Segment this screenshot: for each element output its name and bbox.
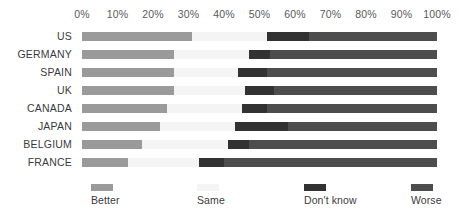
chart-legend: BetterSameDon't knowWorse bbox=[82, 184, 474, 214]
row-label-belgium: BELGIUM bbox=[0, 138, 72, 150]
bar-segment-same bbox=[192, 32, 267, 41]
x-axis-tick: 20% bbox=[142, 8, 163, 20]
row-label-japan: JAPAN bbox=[0, 120, 72, 132]
bar-segment-don-t-know bbox=[267, 32, 310, 41]
legend-swatch-icon bbox=[91, 184, 113, 191]
row-label-germany: GERMANY bbox=[0, 48, 72, 60]
legend-swatch-icon bbox=[304, 184, 326, 191]
stacked-bar-chart: 0%10%20%30%40%50%60%70%80%90%100% USGERM… bbox=[0, 0, 474, 218]
x-axis-tick: 50% bbox=[249, 8, 270, 20]
x-axis-tick: 30% bbox=[178, 8, 199, 20]
bar-segment-same bbox=[174, 86, 245, 95]
x-axis-tick: 10% bbox=[107, 8, 128, 20]
bar-segment-worse bbox=[224, 158, 437, 167]
legend-item[interactable]: Don't know bbox=[304, 184, 357, 206]
bar-segment-better bbox=[82, 158, 128, 167]
chart-row: GERMANY bbox=[0, 48, 474, 66]
legend-item[interactable]: Worse bbox=[411, 184, 442, 206]
chart-row: US bbox=[0, 30, 474, 48]
legend-swatch-icon bbox=[197, 184, 219, 191]
row-label-us: US bbox=[0, 30, 72, 42]
chart-row: BELGIUM bbox=[0, 138, 474, 156]
x-axis-tick-labels: 0%10%20%30%40%50%60%70%80%90%100% bbox=[82, 8, 437, 22]
bar-segment-worse bbox=[288, 122, 437, 131]
stacked-bar bbox=[82, 50, 437, 59]
bar-segment-don-t-know bbox=[228, 140, 249, 149]
bar-segment-better bbox=[82, 86, 174, 95]
bar-segment-worse bbox=[249, 140, 437, 149]
bar-segment-worse bbox=[267, 68, 437, 77]
bar-segment-don-t-know bbox=[199, 158, 224, 167]
stacked-bar bbox=[82, 104, 437, 113]
bar-segment-worse bbox=[309, 32, 437, 41]
bar-segment-don-t-know bbox=[242, 104, 267, 113]
bar-segment-worse bbox=[274, 86, 437, 95]
legend-swatch-icon bbox=[411, 184, 433, 191]
bar-segment-same bbox=[174, 68, 238, 77]
chart-row: SPAIN bbox=[0, 66, 474, 84]
bar-segment-better bbox=[82, 140, 142, 149]
x-axis-tick: 90% bbox=[391, 8, 412, 20]
x-axis-tick: 100% bbox=[423, 8, 450, 20]
chart-plot-area: USGERMANYSPAINUKCANADAJAPANBELGIUMFRANCE bbox=[0, 30, 474, 178]
stacked-bar bbox=[82, 68, 437, 77]
x-axis-tick: 60% bbox=[284, 8, 305, 20]
row-label-spain: SPAIN bbox=[0, 66, 72, 78]
bar-segment-same bbox=[160, 122, 235, 131]
stacked-bar bbox=[82, 122, 437, 131]
bar-segment-don-t-know bbox=[235, 122, 288, 131]
x-axis-tick: 0% bbox=[74, 8, 89, 20]
legend-item[interactable]: Same bbox=[197, 184, 225, 206]
bar-segment-better bbox=[82, 104, 167, 113]
stacked-bar bbox=[82, 158, 437, 167]
bar-segment-better bbox=[82, 50, 174, 59]
row-label-uk: UK bbox=[0, 84, 72, 96]
stacked-bar bbox=[82, 32, 437, 41]
bar-segment-same bbox=[128, 158, 199, 167]
bar-segment-same bbox=[167, 104, 242, 113]
bar-segment-better bbox=[82, 68, 174, 77]
legend-label: Don't know bbox=[304, 194, 357, 206]
legend-item[interactable]: Better bbox=[91, 184, 120, 206]
bar-segment-worse bbox=[270, 50, 437, 59]
row-label-france: FRANCE bbox=[0, 156, 72, 168]
bar-segment-don-t-know bbox=[238, 68, 266, 77]
bar-segment-worse bbox=[267, 104, 437, 113]
chart-row: FRANCE bbox=[0, 156, 474, 174]
chart-row: JAPAN bbox=[0, 120, 474, 138]
x-axis-tick: 80% bbox=[355, 8, 376, 20]
bar-segment-same bbox=[174, 50, 249, 59]
stacked-bar bbox=[82, 86, 437, 95]
bar-segment-don-t-know bbox=[245, 86, 273, 95]
bar-segment-same bbox=[142, 140, 227, 149]
chart-row: UK bbox=[0, 84, 474, 102]
bar-segment-better bbox=[82, 32, 192, 41]
bar-segment-better bbox=[82, 122, 160, 131]
stacked-bar bbox=[82, 140, 437, 149]
bar-segment-don-t-know bbox=[249, 50, 270, 59]
row-label-canada: CANADA bbox=[0, 102, 72, 114]
legend-label: Worse bbox=[411, 194, 442, 206]
legend-label: Same bbox=[197, 194, 225, 206]
x-axis-tick: 70% bbox=[320, 8, 341, 20]
legend-label: Better bbox=[91, 194, 120, 206]
x-axis-tick: 40% bbox=[213, 8, 234, 20]
chart-row: CANADA bbox=[0, 102, 474, 120]
